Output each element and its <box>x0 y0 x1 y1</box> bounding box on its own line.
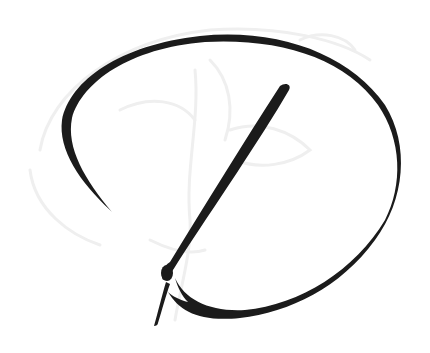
lower-tail-stroke <box>154 282 170 326</box>
diagonal-stem-stroke <box>162 84 290 280</box>
junction-knot <box>161 265 173 281</box>
calligraphy-canvas: D <box>0 0 430 353</box>
letter-d-artwork <box>0 0 430 353</box>
